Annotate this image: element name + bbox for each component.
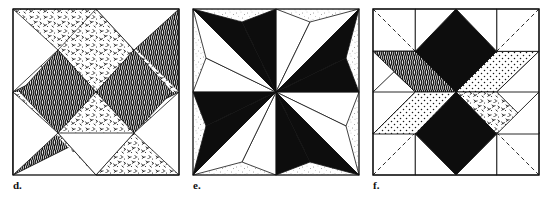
panel-e-seam-lines xyxy=(193,9,359,175)
panel-d-label: d. xyxy=(13,179,22,192)
quilt-block-panel-e: e. xyxy=(180,0,360,198)
panel-f-drawing xyxy=(360,0,540,198)
quilt-block-panel-f: f. xyxy=(360,0,540,198)
panel-e-label: e. xyxy=(193,179,201,192)
figure-root: d. xyxy=(0,0,540,198)
quilt-block-panel-d: d. xyxy=(0,0,180,198)
panel-f-label: f. xyxy=(373,179,379,192)
panel-e-drawing xyxy=(180,0,360,198)
panel-d-drawing xyxy=(0,0,180,198)
